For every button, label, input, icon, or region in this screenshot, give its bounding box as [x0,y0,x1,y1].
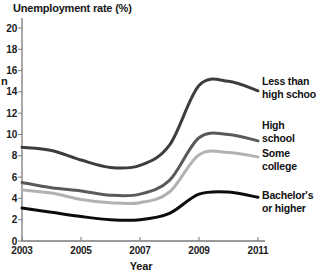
bachelors-or-higher-label: or higher [262,202,306,214]
x-tick-label: 2011 [248,245,270,256]
y-tick-label: 18 [6,44,17,55]
x-tick-label: 2003 [11,245,33,256]
some-college-line [22,151,258,204]
high-school-label: High [262,119,285,131]
axes [22,18,265,241]
chart-figure: Unemployment rate (%) n 0246810121416182… [0,0,316,280]
x-axis-title: Year [130,260,152,272]
y-tick-label: 10 [6,129,17,140]
y-tick-label: 16 [6,65,17,76]
y-tick-label: 4 [12,193,18,204]
y-tick-label: 6 [12,172,18,183]
less-than-high-school-line [22,79,258,168]
x-tick-label: 2005 [70,245,92,256]
y-tick-label: 20 [6,23,17,34]
bachelors-or-higher-label: Bachelor's [262,189,314,201]
y-tick-label: 12 [6,108,17,119]
less-than-high-school-label: high school [262,88,316,100]
some-college-label: Some [262,147,290,159]
y-tick-label: 14 [6,86,17,97]
high-school-label: school [262,132,295,144]
some-college-label: college [262,160,297,172]
less-than-high-school-label: Less than [262,75,309,87]
line-chart-canvas: 0246810121416182020032005200720092011Les… [0,0,316,280]
y-tick-label: 2 [12,214,18,225]
bachelors-or-higher-line [22,192,258,221]
y-tick-label: 8 [12,150,18,161]
x-tick-label: 2007 [129,245,151,256]
x-tick-label: 2009 [188,245,210,256]
